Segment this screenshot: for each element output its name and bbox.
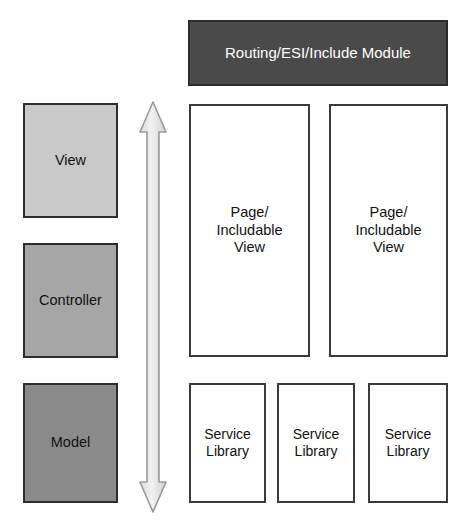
mvc-box-view-label: View (55, 152, 86, 170)
service-library-label-1: Service Library (204, 426, 251, 460)
page-includable-view-label-1: Page/ Includable View (216, 204, 282, 257)
page-includable-view-box-1[interactable]: Page/ Includable View (189, 104, 310, 357)
page-includable-view-label-2: Page/ Includable View (355, 204, 421, 257)
service-library-box-3[interactable]: Service Library (368, 383, 448, 503)
service-library-box-1[interactable]: Service Library (189, 383, 266, 503)
routing-module-label: Routing/ESI/Include Module (225, 44, 411, 62)
mvc-box-model-label: Model (51, 434, 91, 452)
mvc-box-controller-label: Controller (39, 292, 102, 310)
service-library-label-3: Service Library (385, 426, 432, 460)
mvc-box-model[interactable]: Model (23, 383, 118, 503)
page-includable-view-box-2[interactable]: Page/ Includable View (329, 104, 448, 357)
routing-module-box[interactable]: Routing/ESI/Include Module (188, 20, 448, 86)
service-library-box-2[interactable]: Service Library (277, 383, 355, 503)
mvc-box-controller[interactable]: Controller (23, 243, 118, 358)
mvc-box-view[interactable]: View (23, 103, 118, 218)
service-library-label-2: Service Library (293, 426, 340, 460)
vertical-double-arrow-icon (134, 98, 172, 516)
architecture-diagram: Routing/ESI/Include Module View Controll… (0, 0, 473, 532)
